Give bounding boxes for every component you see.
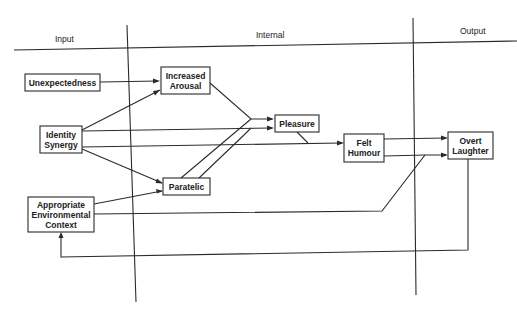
svg-text:Identity: Identity: [46, 130, 76, 140]
node-paratelic: Paratelic: [163, 178, 210, 195]
humour-flow-diagram: Input Internal Output Unexpectedness Ide…: [0, 0, 517, 314]
svg-text:Increased: Increased: [166, 71, 206, 81]
arrowhead: [441, 153, 448, 158]
node-pleasure: Pleasure: [275, 115, 319, 132]
svg-text:Felt: Felt: [356, 138, 371, 148]
internal-output-divider: [413, 18, 416, 295]
node-felt-humour: Felt Humour: [344, 134, 384, 162]
svg-text:Synergy: Synergy: [44, 140, 78, 150]
node-overt-laughter: Overt Laughter: [448, 132, 493, 159]
edge-arousal-pleasure: [210, 83, 272, 119]
node-appropriate-environmental-context: Appropriate Environmental Context: [28, 197, 94, 232]
edge-identity-arousal: [82, 90, 160, 130]
svg-text:Arousal: Arousal: [170, 81, 202, 91]
arrowhead: [267, 126, 274, 131]
edge-unexpectedness-arousal: [100, 81, 158, 82]
input-internal-divider: [127, 25, 136, 302]
section-internal: Internal: [256, 30, 284, 40]
svg-text:Context: Context: [45, 220, 77, 230]
arrowhead: [156, 189, 163, 194]
edge-paratelic-pleasure-a: [181, 119, 251, 178]
edge-context-laughter: [94, 155, 446, 214]
edge-identity-pleasure: [82, 128, 272, 131]
edge-context-paratelic: [94, 191, 162, 204]
svg-text:Appropriate: Appropriate: [37, 200, 85, 210]
arrowhead: [59, 232, 64, 238]
arrowhead: [153, 90, 160, 96]
section-input: Input: [55, 34, 75, 44]
edge-laughter-context-feedback: [61, 158, 468, 257]
arrowhead: [441, 136, 448, 141]
edge-identity-felthumour: [82, 143, 342, 147]
node-identity-synergy: Identity Synergy: [40, 126, 82, 153]
svg-text:Paratelic: Paratelic: [169, 182, 205, 192]
edge-paratelic-pleasure-b: [199, 128, 251, 178]
arrowhead: [337, 141, 344, 146]
svg-text:Pleasure: Pleasure: [279, 119, 315, 129]
edge-identity-paratelic: [82, 149, 162, 183]
svg-text:Unexpectedness: Unexpectedness: [29, 78, 97, 88]
node-increased-arousal: Increased Arousal: [161, 67, 210, 94]
svg-text:Humour: Humour: [348, 148, 381, 158]
edge-felthumour-laughter-a: [384, 138, 446, 139]
svg-text:Laughter: Laughter: [452, 146, 489, 156]
section-output: Output: [460, 26, 486, 36]
edge-pleasure-felthumour: [297, 132, 308, 143]
arrowhead: [153, 79, 160, 84]
arrowhead: [267, 117, 274, 122]
edge-felthumour-laughter-b: [384, 155, 425, 156]
svg-text:Environmental: Environmental: [31, 210, 90, 220]
svg-text:Overt: Overt: [459, 136, 481, 146]
node-unexpectedness: Unexpectedness: [25, 74, 100, 91]
header-divider: [14, 41, 517, 50]
arrowhead: [156, 179, 164, 184]
